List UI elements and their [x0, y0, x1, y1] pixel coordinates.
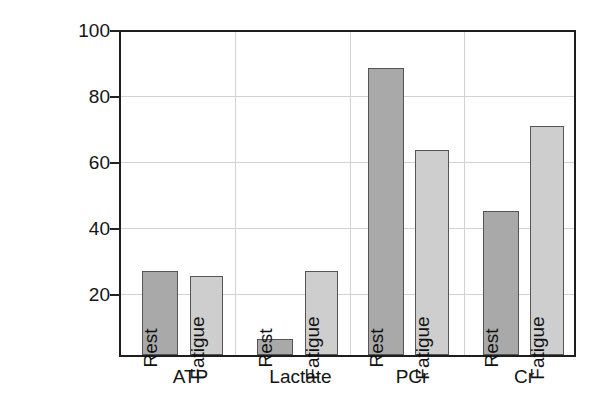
gridline-category-2: [350, 32, 351, 355]
gridline-category-3: [464, 32, 465, 355]
x-label-atp: ATP: [138, 365, 243, 389]
bar-pcr-fatigue[interactable]: Fatigue: [415, 150, 449, 355]
x-label-pcr: PCr: [362, 365, 462, 389]
bar-lactate-fatigue[interactable]: Fatigue: [305, 271, 338, 355]
bar-label-pcr-rest: Rest: [367, 328, 386, 367]
bar-label-atp-rest: Rest: [141, 328, 160, 367]
y-tick-label-60: 60: [64, 153, 110, 172]
plot-area: Rest Fatigue Rest Fatigue Rest Fatigue R…: [119, 30, 576, 357]
bar-cr-rest[interactable]: Rest: [483, 211, 519, 355]
bar-label-lactate-rest: Rest: [256, 328, 275, 367]
y-tick-label-40: 40: [64, 219, 110, 238]
x-label-cr: Cr: [474, 365, 574, 389]
x-axis-category-labels: ATP Lactate PCr Cr: [119, 365, 576, 397]
gridline-category-1: [235, 32, 236, 355]
y-axis-title: mmoles/kg dry weight: [6, 0, 32, 57]
bar-atp-rest[interactable]: Rest: [142, 271, 178, 355]
bar-cr-fatigue[interactable]: Fatigue: [530, 126, 564, 355]
x-label-lactate: Lactate: [243, 365, 358, 389]
y-tick-label-100: 100: [64, 21, 110, 40]
y-tick-label-20: 20: [64, 285, 110, 304]
gridline-60: [121, 162, 574, 163]
y-axis-tick-labels: 100 80 60 40 20: [46, 0, 110, 417]
y-axis-title-wrap: mmoles/kg dry weight: [0, 0, 40, 417]
gridline-80: [121, 96, 574, 97]
bar-chart: mmoles/kg dry weight 100 80 60 40 20 Res…: [0, 0, 602, 417]
bar-lactate-rest[interactable]: Rest: [257, 339, 293, 355]
y-tick-label-80: 80: [64, 87, 110, 106]
bar-pcr-rest[interactable]: Rest: [368, 68, 404, 355]
bar-atp-fatigue[interactable]: Fatigue: [190, 276, 223, 355]
bar-label-cr-rest: Rest: [482, 328, 501, 367]
